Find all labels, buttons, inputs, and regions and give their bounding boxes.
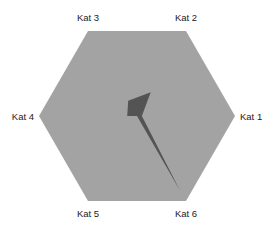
axis-label-kat-4: Kat 4 [12, 111, 34, 122]
axis-label-kat-1: Kat 1 [240, 111, 262, 122]
axis-label-kat-2: Kat 2 [175, 12, 197, 23]
radar-chart: Kat 1Kat 2Kat 3Kat 4Kat 5Kat 6 [0, 0, 275, 231]
axis-label-kat-3: Kat 3 [77, 12, 99, 23]
axis-label-kat-6: Kat 6 [175, 208, 197, 219]
axis-label-kat-5: Kat 5 [77, 208, 99, 219]
